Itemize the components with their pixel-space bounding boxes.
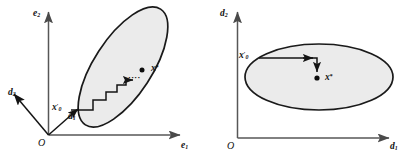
left-axis-label-e1: e1 xyxy=(181,141,188,151)
left-axis-label-e2: e2 xyxy=(33,9,40,19)
left-direction-label-d2: d2 xyxy=(8,88,16,98)
right-origin-label: O xyxy=(227,141,234,151)
diagram-svg xyxy=(0,0,415,163)
left-direction-d2 xyxy=(14,94,49,135)
left-origin-label: O xyxy=(38,138,45,148)
right-axis-label-d1: d1 xyxy=(390,142,398,152)
right-optimum-point-label: x* xyxy=(325,73,333,83)
right-panel-group xyxy=(238,12,394,138)
right-axis-label-d2: d2 xyxy=(220,9,228,19)
left-panel-group xyxy=(14,0,185,141)
figure-canvas: e2 e1 O d2 d1 x′0 ···· x* d2 d1 O x′0 x* xyxy=(0,0,415,163)
right-optimum-dot xyxy=(314,75,319,80)
left-direction-label-d1: d1 xyxy=(68,112,76,122)
left-feasible-ellipse xyxy=(61,0,185,141)
left-path-ellipsis-annotation: ···· xyxy=(128,74,141,82)
left-start-point-label: x′0 xyxy=(52,103,61,113)
left-optimum-dot xyxy=(140,68,145,73)
right-start-point-label: x′0 xyxy=(239,51,248,61)
left-optimum-point-label: x* xyxy=(151,64,159,74)
